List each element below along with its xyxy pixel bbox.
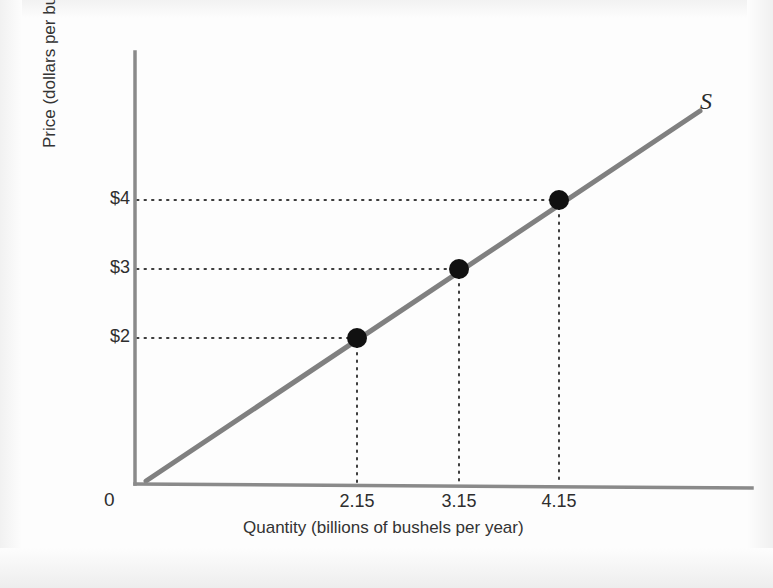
supply-curve [146, 111, 700, 481]
y-axis-title: Price (dollars per bushel) [40, 0, 60, 148]
supply-curve-figure: Price (dollars per bushel) Quantity (bil… [0, 0, 773, 588]
y-axis-tick-label-3: $3 [84, 257, 130, 278]
origin-label: 0 [104, 489, 115, 511]
vertical-guide-lines [357, 200, 559, 482]
x-axis-tick-label-215: 2.15 [322, 491, 392, 512]
x-axis-tick-label-315: 3.15 [424, 491, 494, 512]
horizontal-guide-lines [137, 200, 559, 338]
supply-curve-label: S [700, 88, 712, 115]
x-axis-line [135, 484, 752, 488]
x-axis-title: Quantity (billions of bushels per year) [243, 518, 524, 538]
data-point-2 [449, 259, 469, 279]
y-axis-tick-label-4: $4 [84, 188, 130, 209]
y-axis-tick-label-2: $2 [84, 326, 130, 347]
data-point-3 [549, 190, 569, 210]
data-point-1 [347, 328, 367, 348]
x-axis-tick-label-415: 4.15 [524, 491, 594, 512]
